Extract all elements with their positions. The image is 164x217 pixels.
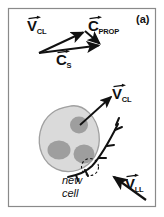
label-v-ll: V LL [125,176,143,192]
label-c-s-symbol-wrap: C [56,52,67,68]
figure-panel-a: V CL C PROP C S V CL [0,0,164,217]
label-v-cl-top: V CL [27,18,46,34]
nucleus-left [48,141,71,160]
label-c-prop-subscript: PROP [99,27,119,36]
label-v-cl-top-symbol-wrap: V [27,18,37,34]
overarrow-icon [126,173,139,179]
new-cell-annotation-line1: new [62,174,82,187]
label-v-cl-bottom-symbol-wrap: V [112,86,122,102]
label-v-cl-top-subscript: CL [37,27,47,36]
overarrow-icon [28,15,41,21]
filament-branch-3 [107,145,114,146]
label-v-cl-bottom-subscript: CL [122,95,132,104]
label-c-s-subscript: S [67,61,72,70]
overarrow-icon [113,83,126,89]
label-v-ll-symbol-wrap: V [125,176,135,192]
label-c-prop: C PROP [88,18,119,34]
label-v-ll-subscript: LL [135,185,144,194]
overarrow-icon [89,15,102,21]
new-cell-annotation: new cell [62,174,82,199]
nucleus-right [74,145,95,164]
new-cell-annotation-line2: cell [62,187,82,200]
label-v-cl-bottom: V CL [112,86,131,102]
panel-label: (a) [136,13,149,25]
overarrow-icon [57,49,70,55]
label-c-s: C S [56,52,71,68]
label-c-prop-symbol-wrap: C [88,18,99,34]
